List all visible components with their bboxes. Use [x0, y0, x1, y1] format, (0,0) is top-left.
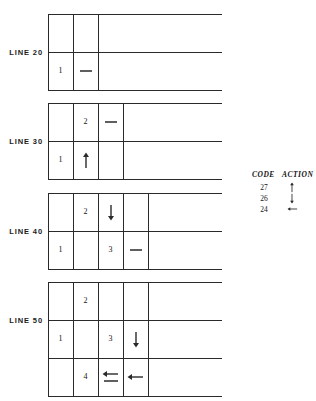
- dash-icon: [79, 67, 93, 75]
- line-label: LINE 50: [0, 316, 43, 325]
- vertical-rule: [123, 193, 124, 269]
- cell-value: 2: [76, 208, 96, 216]
- cell-value: 1: [51, 156, 71, 164]
- vertical-rule: [48, 103, 49, 179]
- horizontal-rule: [48, 141, 222, 142]
- horizontal-rule: [48, 179, 222, 180]
- vertical-rule: [98, 14, 99, 90]
- horizontal-rule: [48, 193, 222, 194]
- vertical-rule: [48, 193, 49, 269]
- vertical-rule: [48, 14, 49, 90]
- vertical-rule: [73, 14, 74, 90]
- line-label: LINE 30: [0, 137, 43, 146]
- cell-value: 1: [51, 335, 71, 343]
- vertical-rule: [98, 193, 99, 269]
- cell-value: 3: [101, 335, 121, 343]
- vertical-rule: [98, 282, 99, 396]
- vertical-rule: [148, 282, 149, 396]
- vertical-rule: [98, 103, 99, 179]
- arrow-down-icon: [106, 204, 116, 221]
- legend-code-value: 24: [253, 205, 275, 214]
- cell-value: 4: [76, 373, 96, 381]
- arrow-down-icon: [131, 331, 141, 348]
- vertical-rule: [123, 282, 124, 396]
- dash-icon: [129, 246, 143, 254]
- cell-value: 2: [76, 118, 96, 126]
- vertical-rule: [73, 103, 74, 179]
- vertical-rule: [73, 282, 74, 396]
- dash-icon: [104, 118, 118, 126]
- arrow-up-icon: [81, 152, 91, 169]
- horizontal-rule: [48, 52, 222, 53]
- vertical-rule: [148, 193, 149, 269]
- line-label: LINE 20: [0, 48, 43, 57]
- cell-value: 1: [51, 67, 71, 75]
- arrow-left-icon: [287, 206, 298, 212]
- horizontal-rule: [48, 103, 222, 104]
- arrow-left-icon: [127, 372, 144, 382]
- horizontal-rule: [48, 358, 222, 359]
- vertical-rule: [48, 282, 49, 396]
- line-label: LINE 40: [0, 227, 43, 236]
- horizontal-rule: [48, 320, 222, 321]
- arrow-up-icon: [289, 182, 295, 193]
- vertical-rule: [123, 103, 124, 179]
- cell-value: 2: [76, 297, 96, 305]
- vertical-rule: [73, 193, 74, 269]
- horizontal-rule: [48, 282, 222, 283]
- cell-value: 3: [101, 246, 121, 254]
- cell-value: 1: [51, 246, 71, 254]
- arrow-left-underline-icon: [102, 370, 119, 385]
- horizontal-rule: [48, 269, 222, 270]
- legend-code-value: 26: [253, 194, 275, 203]
- legend-header-code: CODE: [252, 170, 275, 179]
- legend-header-action: ACTION: [282, 170, 313, 179]
- horizontal-rule: [48, 14, 222, 15]
- arrow-down-icon: [289, 193, 295, 204]
- legend-code-value: 27: [253, 183, 275, 192]
- horizontal-rule: [48, 90, 222, 91]
- horizontal-rule: [48, 231, 222, 232]
- horizontal-rule: [48, 396, 222, 397]
